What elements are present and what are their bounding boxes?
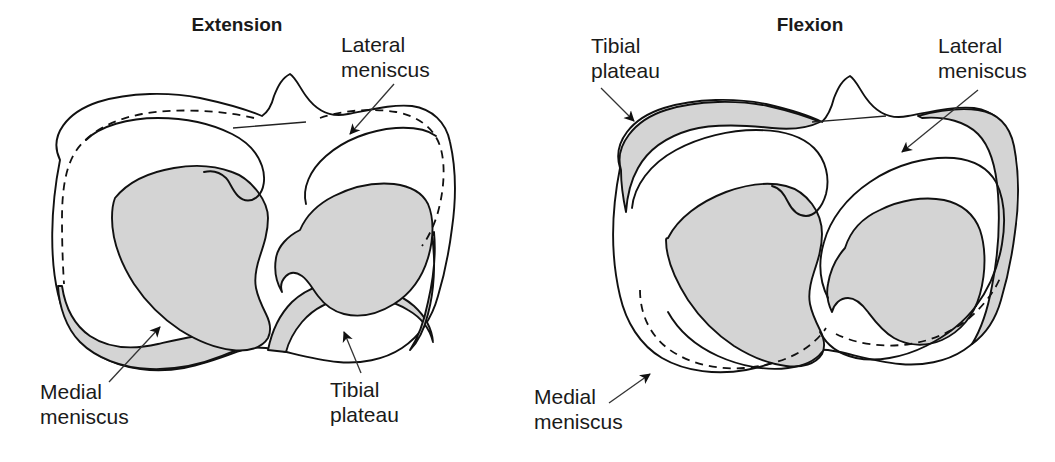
label-medial-meniscus-extension-line1: Medial	[40, 380, 102, 403]
panel-flexion: Flexion Tibial plateau Lateral meniscus …	[534, 14, 1027, 433]
label-medial-meniscus-flexion-line1: Medial	[534, 385, 596, 408]
label-lateral-meniscus-extension-line1: Lateral	[341, 33, 405, 56]
panel-extension: Extension Lateral meniscus Medial menisc…	[40, 14, 455, 428]
label-lateral-meniscus-flexion-line2: meniscus	[938, 59, 1027, 82]
figure-canvas: Extension Lateral meniscus Medial menisc…	[0, 0, 1055, 462]
leader-tibial-plateau-flexion	[601, 88, 634, 121]
label-medial-meniscus-extension-line2: meniscus	[40, 405, 129, 428]
label-lateral-meniscus-extension-line2: meniscus	[341, 58, 430, 81]
label-tibial-plateau-flexion-line1: Tibial	[591, 34, 640, 57]
label-tibial-plateau-extension-line2: plateau	[330, 403, 399, 426]
panel-title-extension: Extension	[192, 14, 283, 35]
label-medial-meniscus-flexion-line2: meniscus	[534, 410, 623, 433]
label-tibial-plateau-extension-line1: Tibial	[330, 378, 379, 401]
panel-title-flexion: Flexion	[777, 14, 844, 35]
leader-medial-meniscus-flexion	[609, 374, 650, 403]
knee-meniscus-diagram: Extension Lateral meniscus Medial menisc…	[0, 0, 1055, 462]
label-lateral-meniscus-flexion-line1: Lateral	[938, 34, 1002, 57]
label-tibial-plateau-flexion-line2: plateau	[591, 59, 660, 82]
